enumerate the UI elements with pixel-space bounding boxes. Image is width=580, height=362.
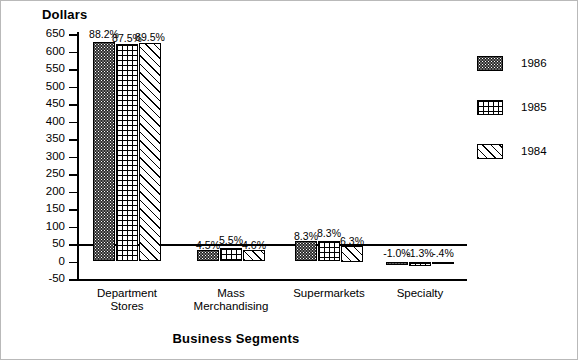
bar-department-stores-1984 — [139, 43, 161, 261]
y-axis-tick — [69, 69, 77, 71]
y-axis-tick-label: 650 — [31, 28, 65, 38]
y-axis-tick — [69, 34, 77, 36]
bar-specialty-1986 — [386, 262, 408, 265]
y-axis-tick-label: 600 — [31, 46, 65, 56]
y-axis-tick-label: 0 — [31, 256, 65, 266]
y-axis-tick — [69, 279, 77, 281]
y-axis-tick-label: 100 — [31, 221, 65, 231]
y-axis-tick-label: 250 — [31, 168, 65, 178]
y-axis-tick — [69, 87, 77, 89]
bar-specialty-1985 — [409, 262, 431, 266]
y-axis-tick-label: 500 — [31, 81, 65, 91]
y-axis-tick-label: 150 — [31, 203, 65, 213]
y-axis-tick — [69, 157, 77, 159]
y-axis-tick — [69, 209, 77, 211]
x-axis-category-label: Specialty — [360, 287, 480, 300]
bar-mass-merchandising-1986 — [197, 250, 219, 261]
legend-swatch-1986 — [477, 56, 503, 71]
legend-swatch-1984 — [477, 144, 503, 159]
x-axis-category-label: DepartmentStores — [67, 287, 187, 313]
legend-label: 1986 — [521, 57, 547, 69]
bar-value-label: 4.6% — [231, 239, 277, 251]
bar-value-label: 6.3% — [329, 235, 375, 247]
chart-figure: Dollars Business Segments 65060055050045… — [0, 0, 578, 360]
y-axis-tick-label: 550 — [31, 63, 65, 73]
y-axis-tick — [69, 174, 77, 176]
y-axis-tick — [69, 139, 77, 141]
y-axis-tick-label: 350 — [31, 133, 65, 143]
y-axis-tick-label: 450 — [31, 98, 65, 108]
bar-specialty-1984 — [432, 262, 454, 264]
bar-supermarkets-1984 — [341, 246, 363, 262]
y-axis-title: Dollars — [42, 7, 87, 22]
y-axis-tick-label: 200 — [31, 186, 65, 196]
legend-label: 1984 — [521, 145, 547, 157]
bar-value-label: -.4% — [420, 247, 466, 259]
y-axis-tick-label: 400 — [31, 116, 65, 126]
y-axis-tick — [69, 262, 77, 264]
x-axis-title: Business Segments — [1, 331, 471, 346]
bar-department-stores-1985 — [116, 44, 138, 262]
y-axis-tick — [69, 52, 77, 54]
y-axis-tick-label: -50 — [31, 273, 65, 283]
y-axis-tick — [69, 104, 77, 106]
bar-department-stores-1986 — [93, 42, 115, 262]
bar-supermarkets-1986 — [295, 241, 317, 262]
y-axis-tick — [69, 227, 77, 229]
y-axis-tick-label: 50 — [31, 238, 65, 248]
y-axis-tick-label: 300 — [31, 151, 65, 161]
y-axis-tick — [69, 244, 77, 246]
y-axis-tick — [69, 192, 77, 194]
plot-area: 88.2%87.5%89.5%4.5%5.5%4.6%8.3%8.3%6.3%-… — [77, 34, 467, 279]
y-axis-tick — [69, 122, 77, 124]
bar-value-label: 89.5% — [127, 31, 173, 43]
legend-swatch-1985 — [477, 100, 503, 115]
bar-mass-merchandising-1984 — [243, 250, 265, 262]
legend-label: 1985 — [521, 101, 547, 113]
x-axis-bottom-line — [77, 279, 467, 281]
